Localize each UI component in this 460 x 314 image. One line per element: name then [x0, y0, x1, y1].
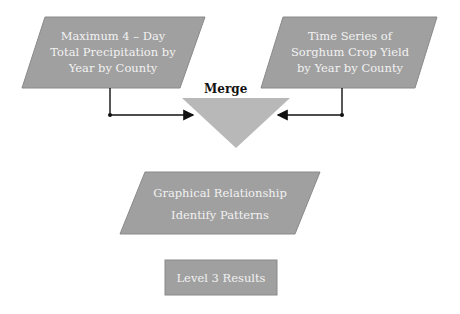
- merge-label: Merge: [204, 82, 247, 96]
- precipitation-label: Maximum 4 – Day Total Precipitation by Y…: [40, 28, 186, 76]
- merge-triangle: [182, 98, 290, 148]
- right-connector-arrow: [278, 88, 342, 115]
- crop-yield-label: Time Series of Sorghum Crop Yield by Yea…: [275, 28, 425, 76]
- level3-results-label: Level 3 Results: [165, 270, 277, 286]
- graphical-relationship-label: Graphical Relationship Identify Patterns: [140, 182, 300, 226]
- left-connector-arrow: [110, 88, 193, 115]
